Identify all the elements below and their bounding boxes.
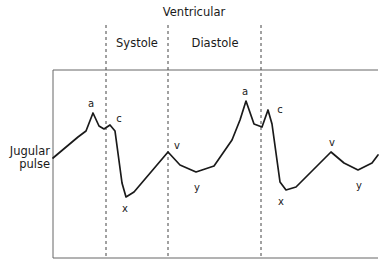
jugular-pulse-diagram: Ventricular Systole Diastole Jugular pul… bbox=[0, 0, 389, 272]
wave-label-x-cycle2: x bbox=[274, 196, 288, 207]
wave-label-a-cycle1: a bbox=[84, 98, 98, 109]
wave-label-a-cycle2: a bbox=[238, 86, 252, 97]
wave-label-c-cycle2: c bbox=[273, 104, 287, 115]
phase-label-diastole: Diastole bbox=[181, 37, 249, 50]
jugular-pulse-trace bbox=[53, 101, 378, 197]
phase-group-title: Ventricular bbox=[139, 6, 249, 19]
wave-label-v-cycle1: v bbox=[170, 140, 184, 151]
y-axis-label-line2: pulse bbox=[0, 158, 50, 171]
wave-label-y-cycle1: y bbox=[190, 182, 204, 193]
wave-label-x-cycle1: x bbox=[118, 203, 132, 214]
wave-label-v-cycle2: v bbox=[325, 137, 339, 148]
wave-label-y-cycle2: y bbox=[352, 180, 366, 191]
phase-label-systole: Systole bbox=[107, 37, 167, 50]
wave-label-c-cycle1: c bbox=[112, 113, 126, 124]
